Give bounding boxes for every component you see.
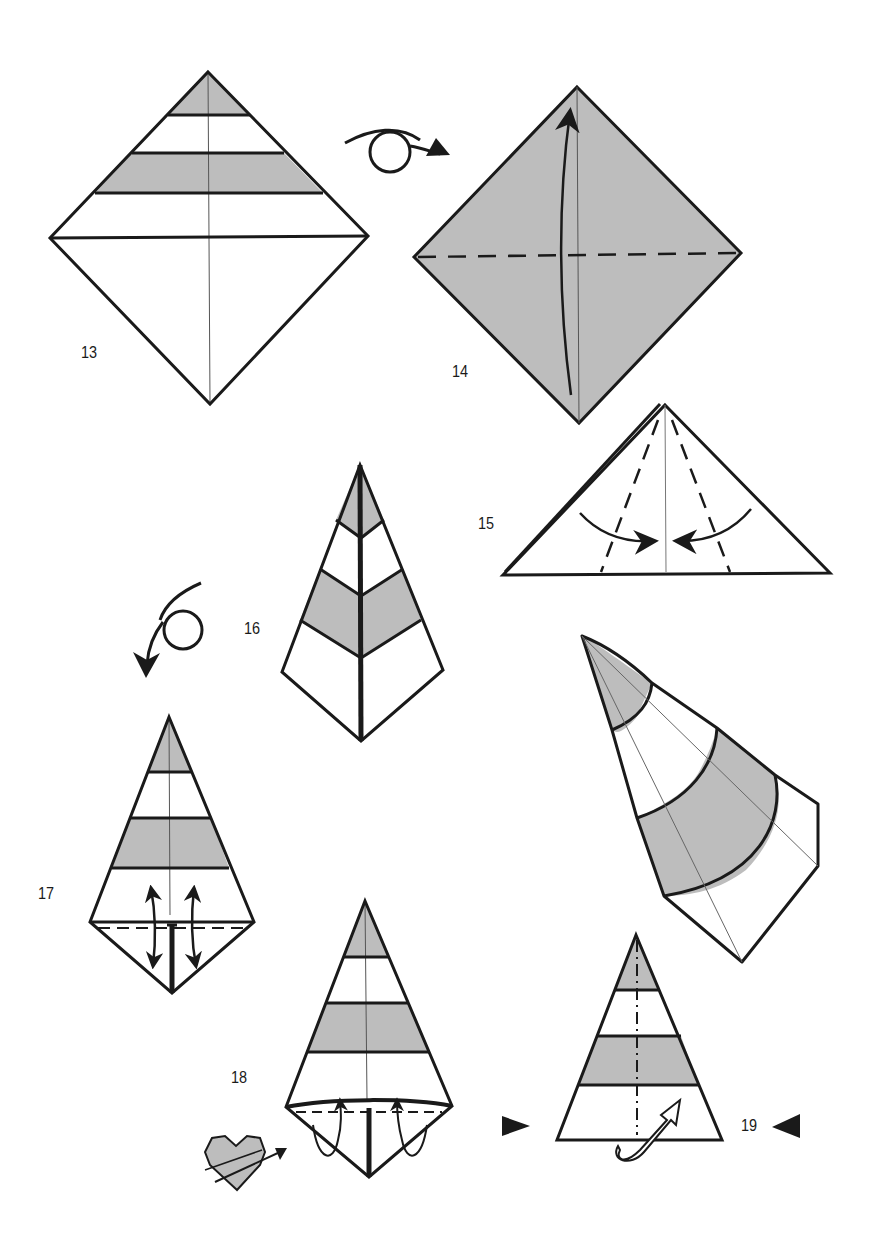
view-arrow-right-icon [502,1116,530,1136]
step-17-diagram [90,717,254,993]
step-19-label: 19 [741,1116,757,1136]
step-14-label: 14 [452,362,468,382]
heart-icon [205,1136,287,1190]
step-18-label: 18 [231,1068,247,1088]
step-17-label: 17 [38,884,54,904]
step-13-label: 13 [81,343,97,363]
finished-cone-diagram [582,636,818,962]
step-15-diagram [503,404,830,575]
step-15-label: 15 [478,514,494,534]
step-16-diagram [282,465,443,741]
turn-over-arrow-icon [345,130,450,172]
origami-diagram [0,0,880,1247]
view-arrow-left-icon [772,1114,800,1138]
step-19-diagram [557,935,722,1161]
step-18-diagram [286,901,452,1177]
step-13-diagram [50,72,368,404]
step-16-label: 16 [244,619,260,639]
turn-over-arrow-icon [133,583,202,678]
